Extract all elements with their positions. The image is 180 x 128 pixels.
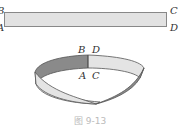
label-mobius-c: C (92, 71, 100, 81)
figure-caption: 图 9-13 (0, 114, 180, 127)
label-mobius-b: B (78, 45, 85, 55)
mobius-strip (0, 0, 180, 128)
label-mobius-a: A (79, 71, 86, 81)
label-mobius-d: D (92, 45, 100, 55)
